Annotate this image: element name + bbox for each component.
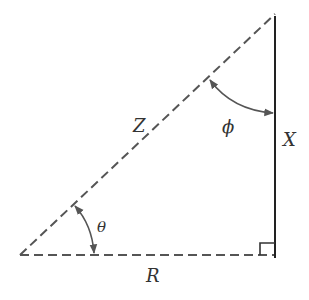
label-theta: θ [97, 218, 106, 236]
label-z: Z [132, 115, 146, 136]
diagram-canvas: Z ϕ X θ R [0, 0, 309, 300]
label-r: R [145, 265, 160, 286]
hypotenuse-z-line [20, 14, 275, 255]
theta-arc-icon [75, 206, 94, 253]
impedance-triangle-diagram: Z ϕ X θ R [0, 0, 309, 300]
label-phi: ϕ [222, 116, 234, 137]
phi-arc-icon [210, 80, 273, 113]
right-angle-marker [260, 243, 275, 255]
label-x: X [281, 129, 297, 150]
